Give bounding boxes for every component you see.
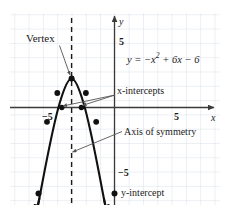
y-axis-tick-label-negative: −5 [118, 168, 129, 178]
equation-lhs: y [127, 54, 132, 65]
point-right-upper [83, 90, 89, 96]
equation-term2-sign: + [162, 54, 169, 65]
x-axis-tick-label-positive: 5 [174, 112, 179, 122]
equation-term2: 6x [172, 54, 182, 65]
x-intercepts-label: x-intercepts [117, 86, 164, 96]
equation-label: y = −x2 + 6x − 6 [127, 52, 199, 65]
point-left-branch-end [36, 191, 42, 197]
x-axis-name: x [211, 113, 215, 123]
equation-term3: 6 [194, 54, 199, 65]
point-vertex [69, 76, 75, 82]
point-y-intercept [112, 191, 118, 197]
point-left-upper [54, 90, 60, 96]
y-axis-name: y [119, 17, 123, 27]
y-intercept-label: y-intercept [121, 188, 164, 198]
parabola-graph-figure: Vertex y = −x2 + 6x − 6 x-intercepts Axi… [0, 0, 230, 217]
equation-term3-sign: − [184, 54, 191, 65]
equation-equals: = [134, 54, 141, 65]
vertex-label: Vertex [26, 33, 55, 44]
y-axis-tick-label-positive: 5 [119, 37, 124, 47]
equation-term1-exponent: 2 [156, 51, 160, 60]
axis-of-symmetry-label: Axis of symmetry [124, 127, 196, 137]
point-right-lower [93, 119, 99, 125]
x-axis-tick-label-negative: −5 [42, 112, 53, 122]
